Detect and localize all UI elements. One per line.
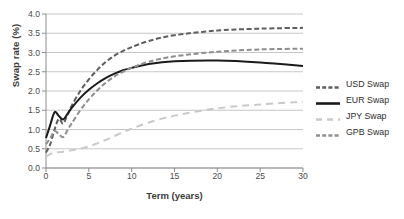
legend-label-gpb-swap: GPB Swap bbox=[346, 127, 389, 137]
legend-label-jpy-swap: JPY Swap bbox=[346, 111, 386, 121]
swap-rate-chart: Swap rate (%) 0.00.51.01.52.02.53.03.54.… bbox=[0, 0, 404, 219]
x-axis-title: Term (years) bbox=[46, 190, 303, 201]
x-tick-label: 0 bbox=[33, 171, 59, 181]
series-lines bbox=[46, 28, 303, 157]
legend-swatch-gpb-swap bbox=[316, 127, 340, 138]
x-tick-label: 25 bbox=[247, 171, 273, 181]
legend-label-usd-swap: USD Swap bbox=[346, 79, 389, 89]
x-tick-label: 10 bbox=[119, 171, 145, 181]
gridlines bbox=[46, 14, 303, 168]
legend-swatch-eur-swap bbox=[316, 95, 340, 106]
legend-item-eur-swap[interactable]: EUR Swap bbox=[316, 92, 402, 108]
chart-legend: USD Swap EUR Swap JPY Swap GPB Swap bbox=[316, 76, 402, 140]
legend-item-jpy-swap[interactable]: JPY Swap bbox=[316, 108, 402, 124]
x-tick-label: 15 bbox=[162, 171, 188, 181]
legend-swatch-jpy-swap bbox=[316, 111, 340, 122]
series-line-usd-swap bbox=[46, 28, 303, 153]
legend-swatch-usd-swap bbox=[316, 79, 340, 90]
legend-item-usd-swap[interactable]: USD Swap bbox=[316, 76, 402, 92]
x-tick-label: 20 bbox=[204, 171, 230, 181]
legend-label-eur-swap: EUR Swap bbox=[346, 95, 389, 105]
x-tick-label: 30 bbox=[290, 171, 316, 181]
legend-item-gpb-swap[interactable]: GPB Swap bbox=[316, 124, 402, 140]
x-tick-label: 5 bbox=[76, 171, 102, 181]
